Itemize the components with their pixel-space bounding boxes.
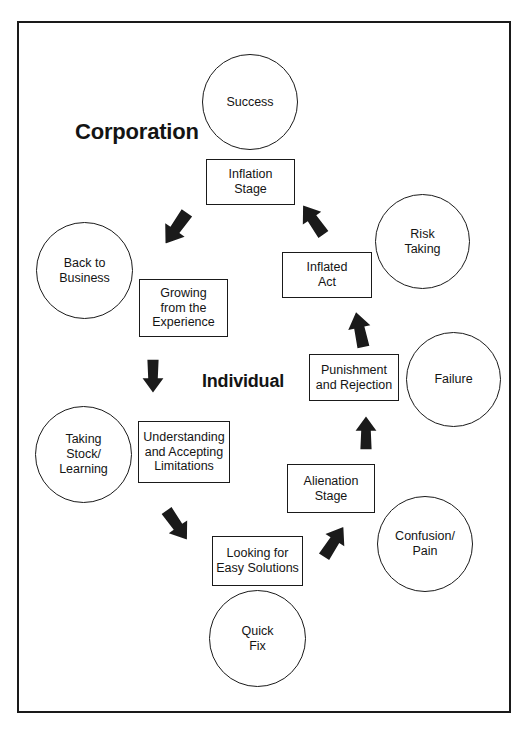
circle-node-label: Confusion/Pain xyxy=(395,529,455,559)
diagram-frame: SuccessRiskTakingBack toBusinessFailureT… xyxy=(17,21,511,713)
box-node-punishment-rejection[interactable]: Punishmentand Rejection xyxy=(309,354,399,401)
arrow-up-left-to-understanding xyxy=(152,499,200,548)
circle-node-label: Failure xyxy=(434,372,472,387)
box-node-looking-easy-solutions[interactable]: Looking forEasy Solutions xyxy=(212,536,303,586)
circle-node-confusion-pain[interactable]: Confusion/Pain xyxy=(377,496,473,592)
box-node-label: Looking forEasy Solutions xyxy=(216,546,299,576)
box-node-understanding-limitations[interactable]: Understandingand AcceptingLimitations xyxy=(138,421,230,483)
box-node-inflated-act[interactable]: InflatedAct xyxy=(282,252,372,298)
circle-node-label: TakingStock/Learning xyxy=(59,432,108,476)
arrow-up-to-growing xyxy=(141,354,165,396)
arrow-down-right-to-inflated-act xyxy=(291,197,337,245)
box-node-label: Understandingand AcceptingLimitations xyxy=(143,430,224,474)
box-node-label: InflationStage xyxy=(229,167,273,197)
circle-node-failure[interactable]: Failure xyxy=(406,332,501,427)
arrow-down-to-punishment xyxy=(343,308,377,354)
box-node-label: Growingfrom theExperience xyxy=(152,286,215,330)
box-node-inflation-stage[interactable]: InflationStage xyxy=(206,159,295,205)
section-label-individual: Individual xyxy=(202,371,284,392)
box-node-label: InflatedAct xyxy=(306,260,347,290)
box-node-label: Punishmentand Rejection xyxy=(316,363,392,393)
arrow-down-left-to-looking xyxy=(310,519,356,567)
arrow-down-to-alienation xyxy=(354,413,378,455)
box-node-alienation-stage[interactable]: AlienationStage xyxy=(287,464,375,513)
circle-node-label: RiskTaking xyxy=(404,227,440,257)
circle-node-back-to-business[interactable]: Back toBusiness xyxy=(36,222,133,319)
circle-node-label: Success xyxy=(226,95,273,110)
section-label-corporation: Corporation xyxy=(75,119,199,145)
circle-node-quick-fix[interactable]: QuickFix xyxy=(209,590,306,687)
circle-node-label: Back toBusiness xyxy=(59,256,110,286)
diagram-canvas: SuccessRiskTakingBack toBusinessFailureT… xyxy=(0,0,529,731)
circle-node-taking-stock[interactable]: TakingStock/Learning xyxy=(35,406,132,503)
box-node-growing-from-experience[interactable]: Growingfrom theExperience xyxy=(139,279,228,337)
circle-node-label: QuickFix xyxy=(242,624,274,654)
box-node-label: AlienationStage xyxy=(304,474,359,504)
circle-node-success[interactable]: Success xyxy=(202,54,298,150)
circle-node-risk-taking[interactable]: RiskTaking xyxy=(375,194,470,289)
arrow-up-right-to-inflation xyxy=(153,202,201,252)
